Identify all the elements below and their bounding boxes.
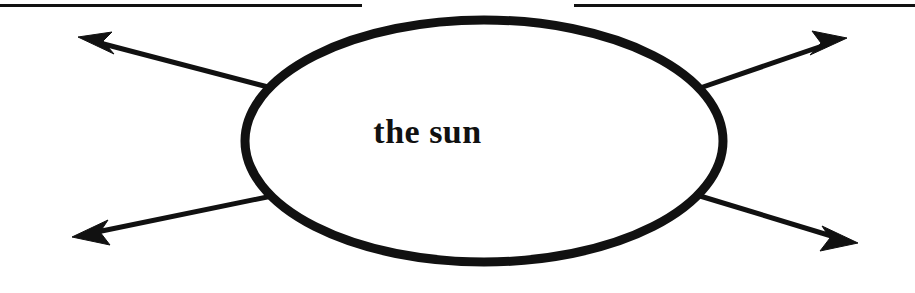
top-rule-right [574,4,915,7]
center-node-label-wrapper: the sun [0,112,915,152]
diagram-page: the sun [0,0,915,293]
branch-upper-left[interactable] [78,32,272,88]
arrowhead-upper-right [810,31,847,55]
center-node-label: the sun [373,112,481,152]
branch-lower-right[interactable] [700,196,858,251]
top-rule-left [0,4,362,7]
branch-upper-right[interactable] [700,31,847,88]
arrowhead-lower-right [820,226,858,251]
branch-lower-left[interactable] [72,196,272,245]
